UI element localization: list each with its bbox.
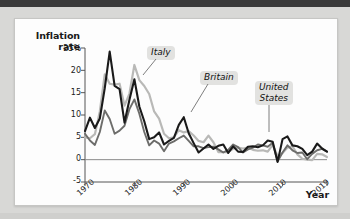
chart-plot-area xyxy=(15,19,337,205)
chart-card: Inflation rate Year 25% 20 15 10 5 0 -5 … xyxy=(14,18,338,206)
series-line-united-states xyxy=(85,99,327,161)
series-line-britain xyxy=(85,52,327,162)
leader-line-italy xyxy=(143,59,156,75)
axis-lines xyxy=(85,48,327,182)
y-axis-ticks xyxy=(81,48,85,182)
scan-bottom-band xyxy=(0,213,350,219)
x-axis-ticks xyxy=(85,182,327,186)
annotation-leader-lines xyxy=(143,59,269,132)
figure-background: Inflation rate Year 25% 20 15 10 5 0 -5 … xyxy=(0,0,350,219)
leader-line-britain xyxy=(191,84,208,112)
scan-top-band xyxy=(0,0,350,7)
